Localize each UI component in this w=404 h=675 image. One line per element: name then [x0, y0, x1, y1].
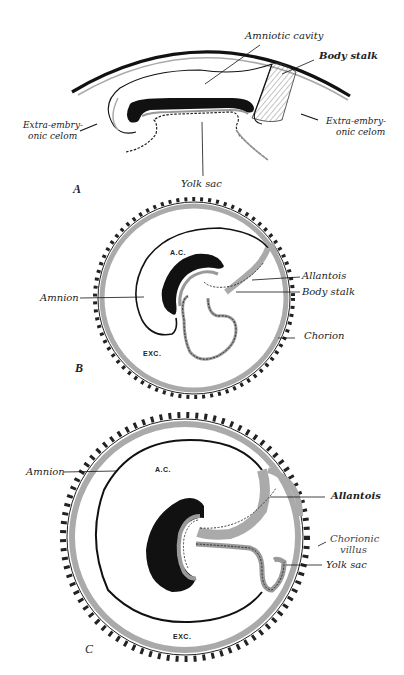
panel-c-drawing	[63, 415, 326, 659]
panel-b-drawing	[80, 199, 300, 397]
label-extra-embryonic-celom-left-1: Extra-embry-	[23, 120, 83, 130]
label-allantois-c: Allantois	[331, 490, 381, 501]
panel-letter-b: B	[75, 361, 83, 376]
label-allantois-b: Allantois	[302, 270, 346, 281]
label-body-stalk-a: Body stalk	[319, 50, 378, 61]
embryo-membranes-figure: Amniotic cavity Body stalk Extra-embry- …	[0, 0, 404, 675]
panel-letter-a: A	[73, 182, 81, 197]
panel-letter-c: C	[85, 642, 93, 657]
label-amnion-c: Amnion	[26, 466, 65, 477]
label-extra-embryonic-celom-right-2: onic celom	[336, 127, 385, 137]
label-exc-b: EXC.	[143, 350, 161, 357]
label-exc-c: EXC.	[173, 633, 191, 640]
label-body-stalk-b: Body stalk	[302, 286, 355, 297]
label-chorion-b: Chorion	[304, 330, 345, 341]
label-extra-embryonic-celom-right-1: Extra-embry-	[326, 116, 386, 126]
label-ac-b: A.C.	[170, 249, 186, 256]
label-chorionic-villus-1: Chorionic	[330, 533, 379, 544]
label-extra-embryonic-celom-left-2: onic celom	[28, 131, 77, 141]
label-amniotic-cavity: Amniotic cavity	[245, 30, 323, 41]
label-yolk-sac-c: Yolk sac	[326, 559, 367, 570]
panel-a-drawing	[72, 45, 350, 176]
label-yolk-sac-a: Yolk sac	[181, 178, 222, 189]
label-chorionic-villus-2: villus	[340, 544, 367, 555]
label-ac-c: A.C.	[155, 466, 171, 473]
label-amnion-b: Amnion	[40, 292, 79, 303]
